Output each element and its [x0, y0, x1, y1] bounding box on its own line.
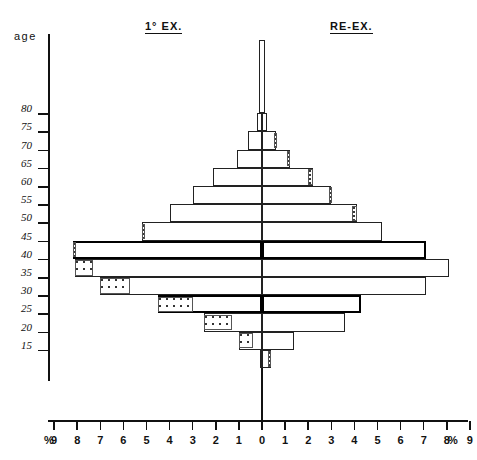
stipple-left-age-50 [142, 224, 145, 240]
y-tick-20 [38, 332, 48, 334]
y-tick-50 [38, 222, 48, 224]
stipple-right-age-60 [329, 187, 332, 203]
x-tick-9 [261, 421, 263, 430]
stipple-left-age-30 [158, 297, 193, 313]
bar-right-age-35 [262, 277, 426, 295]
stipple-right-age-15 [268, 351, 271, 367]
x-tick-label-2: 7 [92, 434, 108, 446]
chart-canvas: age 1° EX. RE-EX. % % 807570656055504540… [0, 0, 477, 460]
stipple-left-age-20 [239, 333, 253, 349]
x-tick-label-12: 3 [323, 434, 339, 446]
y-tick-75 [38, 131, 48, 133]
stipple-right-age-55 [352, 206, 357, 222]
bar-right-age-20 [262, 332, 294, 350]
y-tick-55 [38, 204, 48, 206]
y-tick-25 [38, 313, 48, 315]
stipple-right-age-65 [308, 169, 313, 185]
y-tick-40 [38, 259, 48, 261]
x-tick-8 [238, 421, 240, 430]
x-tick-label-4: 5 [139, 434, 155, 446]
y-tick-label-55: 55 [4, 193, 32, 205]
y-tick-label-30: 30 [4, 284, 32, 296]
bar-right-age-55 [262, 204, 357, 222]
bar-right-age-60 [262, 186, 331, 204]
x-tick-3 [123, 421, 125, 430]
x-axis-line [48, 420, 468, 422]
y-axis-title: age [14, 30, 37, 42]
x-tick-label-9: 0 [254, 434, 270, 446]
y-tick-label-40: 40 [4, 248, 32, 260]
y-tick-65 [38, 168, 48, 170]
x-tick-12 [331, 421, 333, 430]
y-tick-label-45: 45 [4, 230, 32, 242]
stipple-right-age-70 [287, 151, 290, 167]
x-tick-label-16: 7 [416, 434, 432, 446]
y-tick-label-60: 60 [4, 175, 32, 187]
x-tick-label-5: 4 [162, 434, 178, 446]
x-tick-10 [284, 421, 286, 430]
y-tick-label-35: 35 [4, 266, 32, 278]
bar-right-age-65 [262, 168, 313, 186]
x-tick-label-13: 4 [346, 434, 362, 446]
x-tick-17 [446, 421, 448, 430]
x-tick-label-15: 6 [393, 434, 409, 446]
x-tick-label-0: 9 [46, 434, 62, 446]
y-tick-label-20: 20 [4, 321, 32, 333]
x-tick-2 [100, 421, 102, 430]
bar-right-age-30 [262, 295, 361, 313]
y-tick-70 [38, 150, 48, 152]
bar-right-age-70 [262, 150, 290, 168]
bar-left-age-70 [237, 150, 262, 168]
x-tick-label-17: 8 [439, 434, 455, 446]
x-tick-4 [146, 421, 148, 430]
y-tick-15 [38, 350, 48, 352]
y-tick-label-75: 75 [4, 120, 32, 132]
y-tick-label-25: 25 [4, 302, 32, 314]
x-tick-label-8: 1 [231, 434, 247, 446]
y-tick-label-50: 50 [4, 211, 32, 223]
right-series-header: RE-EX. [330, 20, 373, 34]
stipple-left-age-25 [204, 315, 232, 331]
left-series-header: 1° EX. [145, 20, 182, 34]
bar-left-age-45 [73, 241, 262, 259]
bar-left-age-60 [193, 186, 262, 204]
bar-left-age-55 [170, 204, 262, 222]
x-tick-18 [469, 421, 471, 430]
x-tick-5 [169, 421, 171, 430]
x-tick-label-11: 2 [300, 434, 316, 446]
bar-right-age-40 [262, 259, 449, 277]
x-tick-14 [377, 421, 379, 430]
x-tick-1 [76, 421, 78, 430]
x-tick-label-3: 6 [115, 434, 131, 446]
y-tick-label-65: 65 [4, 157, 32, 169]
y-tick-60 [38, 186, 48, 188]
bar-right-age-80 [262, 113, 267, 131]
bar-right-age-50 [262, 222, 382, 240]
x-tick-label-14: 5 [370, 434, 386, 446]
x-tick-15 [400, 421, 402, 430]
stipple-right-age-75 [274, 133, 277, 149]
bar-left-age-50 [142, 222, 262, 240]
x-tick-label-18: 9 [462, 434, 477, 446]
bar-left-age-40 [75, 259, 262, 277]
bar-top-open-ended [259, 40, 265, 113]
y-axis-line [48, 34, 50, 381]
x-tick-label-1: 8 [69, 434, 85, 446]
y-tick-45 [38, 241, 48, 243]
x-tick-label-7: 2 [208, 434, 224, 446]
x-tick-7 [215, 421, 217, 430]
x-tick-0 [53, 421, 55, 430]
y-tick-80 [38, 113, 48, 115]
bar-right-age-25 [262, 313, 345, 331]
y-tick-label-70: 70 [4, 139, 32, 151]
x-tick-label-6: 3 [185, 434, 201, 446]
bar-right-age-45 [262, 241, 426, 259]
x-tick-11 [307, 421, 309, 430]
bar-left-age-65 [213, 168, 262, 186]
y-tick-30 [38, 295, 48, 297]
y-tick-35 [38, 277, 48, 279]
y-tick-label-15: 15 [4, 339, 32, 351]
bar-left-age-75 [248, 131, 262, 149]
x-tick-13 [354, 421, 356, 430]
stipple-left-age-40 [75, 260, 93, 276]
